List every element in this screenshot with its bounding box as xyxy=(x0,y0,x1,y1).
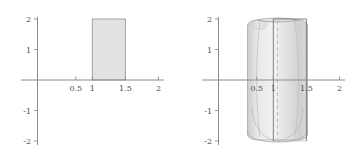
y-tick-label-3: -2 xyxy=(204,137,212,146)
x-tick-label-1: 1 xyxy=(90,84,95,93)
y-tick-label-0: 2 xyxy=(207,15,212,24)
right-plot-panel: 0.5 1 1.5 2 2 1 -1 -2 xyxy=(181,0,361,160)
y-tick-label-1: 1 xyxy=(207,46,212,55)
figure-container: 0.5 1 1.5 2 2 1 -1 -2 xyxy=(0,0,361,160)
x-tick-label-3: 2 xyxy=(156,84,161,93)
x-tick-label-3: 2 xyxy=(337,84,342,93)
rectangle-region xyxy=(92,19,125,80)
left-plot-svg: 0.5 1 1.5 2 2 1 -1 -2 xyxy=(0,0,180,160)
y-tick-label-2: -1 xyxy=(204,107,212,116)
y-tick-label-2: -1 xyxy=(23,107,31,116)
x-tick-label-0: 0.5 xyxy=(250,84,263,93)
x-tick-label-2: 1.5 xyxy=(119,84,132,93)
y-tick-label-0: 2 xyxy=(26,15,31,24)
y-tick-label-3: -2 xyxy=(23,137,31,146)
left-plot-panel: 0.5 1 1.5 2 2 1 -1 -2 xyxy=(0,0,180,160)
x-tick-label-0: 0.5 xyxy=(69,84,82,93)
y-tick-label-1: 1 xyxy=(26,46,31,55)
x-tick-label-1: 1 xyxy=(271,84,276,93)
right-plot-svg: 0.5 1 1.5 2 2 1 -1 -2 xyxy=(181,0,361,160)
x-tick-label-2: 1.5 xyxy=(300,84,313,93)
